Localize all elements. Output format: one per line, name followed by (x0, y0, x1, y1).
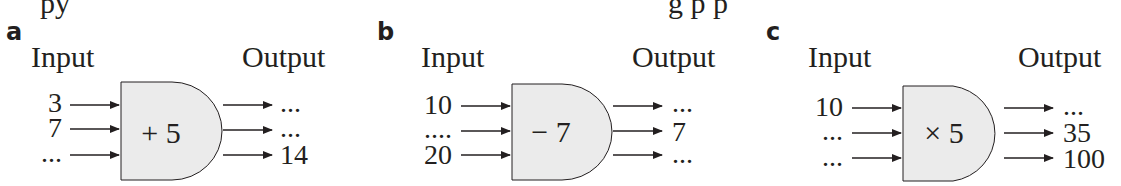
input-value: ... (41, 137, 62, 168)
output-value: 14 (280, 139, 308, 170)
operation-label: − 7 (531, 115, 570, 148)
panel-a: a Input Output + 5 3 7 ... ... ... 14 (0, 0, 370, 186)
operation-label: + 5 (141, 116, 180, 149)
function-machine-diagram: × 5 10 ... ... ... 35 100 (760, 0, 1121, 186)
input-value: 20 (424, 139, 452, 170)
input-value: ... (822, 141, 843, 172)
output-value: ... (672, 87, 693, 118)
output-value: ... (672, 138, 693, 169)
panel-b: b Input Output − 7 10 .... 20 ... 7 ... (380, 0, 750, 186)
function-machine-diagram: − 7 10 .... 20 ... 7 ... (380, 0, 750, 186)
operation-label: × 5 (924, 116, 963, 149)
output-value: 100 (1063, 143, 1105, 174)
function-machine-diagram: + 5 3 7 ... ... ... 14 (0, 0, 370, 186)
panel-c: c Input Output × 5 10 ... ... ... 35 100 (760, 0, 1121, 186)
